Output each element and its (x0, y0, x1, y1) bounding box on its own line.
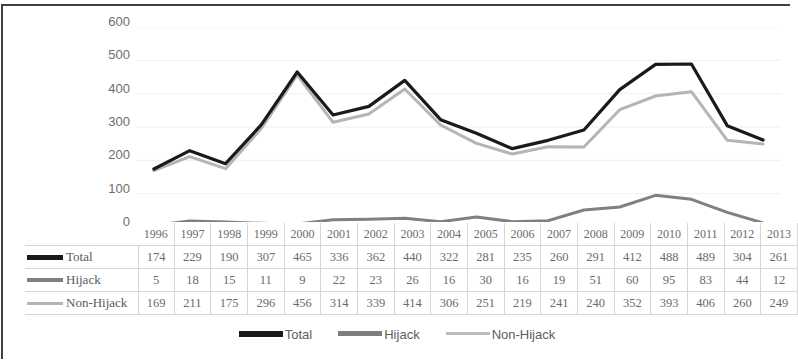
legend-item-hijack[interactable]: Hijack (338, 326, 419, 342)
table-cell: 18 (174, 269, 211, 292)
table-col-header: 2009 (614, 223, 651, 246)
legend-line-swatch (239, 331, 283, 337)
table-cell: 240 (577, 292, 614, 315)
legend-item-total[interactable]: Total (239, 326, 312, 342)
table-col-header: 2011 (687, 223, 724, 246)
table-cell: 260 (724, 292, 761, 315)
table-cell: 60 (614, 269, 651, 292)
table-row-label-cell: Total (25, 246, 138, 269)
table-cell: 9 (284, 269, 321, 292)
table-cell: 241 (541, 292, 578, 315)
y-axis-tick: 400 (88, 84, 130, 94)
y-axis-tick: 200 (88, 150, 130, 160)
y-axis-tick: 100 (88, 184, 130, 194)
table-col-header: 1998 (211, 223, 248, 246)
table-cell: 336 (321, 246, 358, 269)
table-cell: 83 (687, 269, 724, 292)
table-col-header: 2012 (724, 223, 761, 246)
legend-label: Total (285, 327, 312, 342)
table-cell: 352 (614, 292, 651, 315)
table-col-header: 2000 (284, 223, 321, 246)
y-axis-tick: 600 (88, 17, 130, 27)
series-line-non-hijack (154, 75, 763, 171)
table-cell: 314 (321, 292, 358, 315)
table-cell: 322 (431, 246, 468, 269)
table-row: Non-Hijack169211175296456314339414306251… (25, 292, 797, 315)
table-col-header: 2008 (577, 223, 614, 246)
table-col-header: 2004 (431, 223, 468, 246)
table-cell: 12 (761, 269, 798, 292)
legend-item-non-hijack[interactable]: Non-Hijack (446, 326, 556, 342)
series-line-total (154, 64, 763, 169)
table-cell: 249 (761, 292, 798, 315)
plot-area (136, 27, 781, 222)
table-cell: 23 (357, 269, 394, 292)
table-cell: 229 (174, 246, 211, 269)
table-cell: 339 (357, 292, 394, 315)
table-cell: 307 (247, 246, 284, 269)
table-cell: 412 (614, 246, 651, 269)
table-col-header: 2013 (761, 223, 798, 246)
non-hijack-line-swatch (27, 302, 63, 305)
table-cell: 175 (211, 292, 248, 315)
table-row-label: Hijack (66, 272, 101, 287)
y-axis-tick: 300 (88, 117, 130, 127)
table-col-header: 2010 (651, 223, 688, 246)
table-row-label-cell: Hijack (25, 269, 138, 292)
table-cell: 296 (247, 292, 284, 315)
legend-label: Non-Hijack (492, 327, 556, 342)
table-col-header: 2002 (357, 223, 394, 246)
table-cell: 465 (284, 246, 321, 269)
total-line-swatch (27, 255, 63, 260)
line-chart-svg (136, 27, 781, 222)
table-cell: 414 (394, 292, 431, 315)
chart-legend: TotalHijackNon-Hijack (0, 326, 794, 342)
y-axis-tick: 500 (88, 50, 130, 60)
table-cell: 26 (394, 269, 431, 292)
table-col-header: 2001 (321, 223, 358, 246)
table-cell: 456 (284, 292, 321, 315)
table-cell: 211 (174, 292, 211, 315)
table-cell: 5 (138, 269, 174, 292)
table-cell: 190 (211, 246, 248, 269)
table-cell: 304 (724, 246, 761, 269)
table-row-label: Non-Hijack (66, 295, 127, 310)
table-cell: 362 (357, 246, 394, 269)
legend-line-swatch (446, 332, 490, 335)
table-col-header: 2003 (394, 223, 431, 246)
table-col-header: 1999 (247, 223, 284, 246)
table-cell: 306 (431, 292, 468, 315)
table-cell: 281 (467, 246, 504, 269)
table-cell: 219 (504, 292, 541, 315)
legend-line-swatch (338, 331, 382, 336)
table-cell: 51 (577, 269, 614, 292)
table-cell: 44 (724, 269, 761, 292)
table-header-row: 1996199719981999200020012002200320042005… (25, 223, 797, 246)
data-table: 1996199719981999200020012002200320042005… (25, 223, 798, 315)
table-cell: 235 (504, 246, 541, 269)
data-table-region: 1996199719981999200020012002200320042005… (25, 223, 780, 315)
table-row-label: Total (66, 249, 93, 264)
table-row: Hijack5181511922232616301619516095834412 (25, 269, 797, 292)
table-head: 1996199719981999200020012002200320042005… (25, 223, 797, 246)
table-cell: 291 (577, 246, 614, 269)
hijack-line-swatch (27, 278, 63, 282)
table-col-header: 1996 (138, 223, 174, 246)
table-cell: 16 (431, 269, 468, 292)
table-cell: 30 (467, 269, 504, 292)
table-cell: 440 (394, 246, 431, 269)
table-cell: 251 (467, 292, 504, 315)
table-row-label-cell: Non-Hijack (25, 292, 138, 315)
table-col-header: 1997 (174, 223, 211, 246)
legend-label: Hijack (384, 327, 419, 342)
table-cell: 19 (541, 269, 578, 292)
series-line-hijack (154, 195, 763, 222)
table-cell: 406 (687, 292, 724, 315)
table-cell: 488 (651, 246, 688, 269)
table-corner-cell (25, 223, 138, 246)
chart-plot-region: 6005004003002001000 (0, 0, 794, 232)
y-axis: 6005004003002001000 (88, 22, 130, 222)
table-cell: 174 (138, 246, 174, 269)
table-cell: 15 (211, 269, 248, 292)
table-col-header: 2006 (504, 223, 541, 246)
